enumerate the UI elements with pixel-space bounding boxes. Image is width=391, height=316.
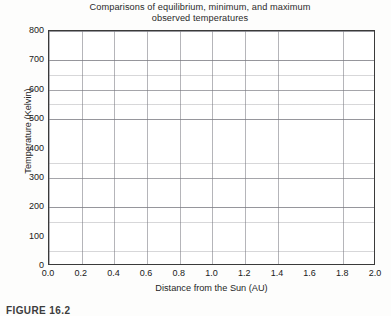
y-tick-label: 700 — [0, 55, 44, 64]
y-axis-tick-labels: 800 700 600 500 400 300 200 100 0 — [0, 30, 44, 265]
gridlines-vertical-major — [49, 31, 374, 264]
y-tick-label: 600 — [0, 84, 44, 93]
gridlines-horizontal-minor — [49, 31, 374, 264]
y-tick-label: 400 — [0, 143, 44, 152]
figure-caption: FIGURE 16.2 — [6, 305, 70, 316]
chart-title-line-1: Comparisons of equilibrium, minimum, and… — [30, 2, 370, 13]
figure-container: Comparisons of equilibrium, minimum, and… — [0, 0, 391, 316]
y-tick-label: 100 — [0, 231, 44, 240]
y-tick-label: 300 — [0, 172, 44, 181]
x-axis-title: Distance from the Sun (AU) — [48, 283, 375, 294]
chart-title-line-2: observed temperatures — [30, 13, 370, 24]
chart-title: Comparisons of equilibrium, minimum, and… — [30, 2, 370, 25]
y-tick-label: 500 — [0, 114, 44, 123]
y-tick-label: 200 — [0, 202, 44, 211]
gridlines-horizontal-major — [49, 31, 374, 264]
x-tick-label: 2.0 — [355, 268, 391, 278]
x-axis-tick-labels: 0.0 0.2 0.4 0.6 0.8 1.0 1.2 1.4 1.6 1.8 … — [48, 268, 375, 280]
y-tick-label: 800 — [0, 26, 44, 35]
y-axis-title: Temperature (Kelvin) — [23, 51, 33, 211]
plot-area — [48, 30, 375, 265]
